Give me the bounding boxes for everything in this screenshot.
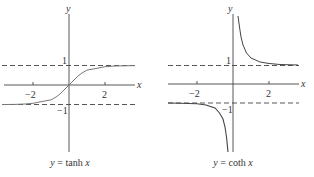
tanh-x-axis-label: x xyxy=(136,79,142,90)
tanh-xtick-label-neg2: −2 xyxy=(25,89,36,100)
coth-plot: y x 1 −1 −2 2 y = coth x xyxy=(168,3,306,168)
tanh-ytick-label-1: 1 xyxy=(62,55,67,66)
hyperbolic-function-figures: y x 1 −1 −2 2 y = tanh x y x 1 −1 −2 2 y… xyxy=(0,0,314,177)
coth-ytick-label-1: 1 xyxy=(226,55,231,66)
coth-xtick-label-neg2: −2 xyxy=(189,88,200,99)
coth-curve-negative xyxy=(168,103,228,152)
tanh-plot: y x 1 −1 −2 2 y = tanh x xyxy=(2,3,142,168)
coth-curve-positive xyxy=(238,16,298,65)
tanh-y-axis-label: y xyxy=(65,3,71,14)
coth-xtick-label-2: 2 xyxy=(266,88,271,99)
coth-ytick-label-neg1: −1 xyxy=(222,104,233,115)
coth-x-axis-label: x xyxy=(300,78,306,89)
coth-caption: y = coth x xyxy=(212,157,253,168)
tanh-xtick-label-2: 2 xyxy=(102,89,107,100)
coth-y-axis-label: y xyxy=(227,3,233,14)
tanh-ytick-label-neg1: −1 xyxy=(57,105,68,116)
tanh-caption: y = tanh x xyxy=(49,157,90,168)
